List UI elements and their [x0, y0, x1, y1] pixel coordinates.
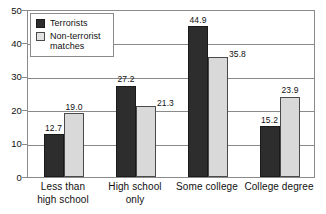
- legend-label-line-2: matches: [50, 41, 84, 51]
- x-label-line-2: high school: [37, 194, 89, 205]
- x-label-line-1: High school: [108, 181, 161, 192]
- y-tick-label-10: 10: [2, 138, 22, 149]
- x-label-college-degree: College degree: [243, 181, 315, 194]
- legend-swatch-nonterrorist-icon: [36, 32, 45, 41]
- legend-swatch-terrorists-icon: [36, 19, 45, 28]
- bar-nonterrorist-college-degree[interactable]: [280, 97, 300, 177]
- x-label-some-college: Some college: [171, 181, 243, 194]
- x-label-line-1: College degree: [244, 181, 313, 192]
- legend-entry-terrorists[interactable]: Terrorists: [36, 18, 106, 29]
- bar-nonterrorist-high-school-only[interactable]: [136, 106, 156, 178]
- bar-terrorists-less-than-high-school[interactable]: [44, 134, 64, 177]
- bar-value-nonterrorist-less-than-high-school: 19.0: [58, 102, 90, 112]
- x-label-line-1: Some college: [176, 181, 238, 192]
- bar-chart: 50 40 30 20 10 0 12.7 19.0: [0, 0, 326, 214]
- x-label-high-school-only: High school only: [99, 181, 171, 206]
- bar-value-terrorists-college-degree: 15.2: [246, 115, 278, 125]
- legend-entry-nonterrorist-matches[interactable]: Non-terroristmatches: [36, 31, 106, 52]
- bar-value-terrorists-some-college: 44.9: [182, 15, 214, 25]
- bar-nonterrorist-some-college[interactable]: [208, 57, 228, 177]
- bar-group-college-degree: 15.2 23.9: [244, 11, 316, 177]
- bar-nonterrorist-less-than-high-school[interactable]: [64, 113, 84, 177]
- bar-terrorists-some-college[interactable]: [188, 26, 208, 177]
- x-label-line-1: Less than: [41, 181, 85, 192]
- bar-terrorists-college-degree[interactable]: [260, 126, 280, 177]
- legend-label-nonterrorist-matches: Non-terroristmatches: [50, 31, 101, 52]
- bar-value-nonterrorist-college-degree: 23.9: [274, 85, 306, 95]
- y-tick-label-0: 0: [2, 172, 22, 183]
- x-label-line-2: only: [126, 194, 145, 205]
- legend-label-line-1: Non-terrorist: [50, 31, 101, 41]
- y-axis: 50 40 30 20 10 0: [0, 0, 27, 214]
- y-tick-label-20: 20: [2, 105, 22, 116]
- legend: Terrorists Non-terroristmatches: [30, 13, 114, 57]
- bar-value-terrorists-less-than-high-school: 12.7: [28, 123, 62, 133]
- y-tick-label-30: 30: [2, 71, 22, 82]
- x-label-less-than-high-school: Less than high school: [27, 181, 99, 206]
- x-axis-category-labels: Less than high school High school only S…: [27, 181, 315, 214]
- y-tick-label-50: 50: [2, 5, 22, 16]
- bar-terrorists-high-school-only[interactable]: [116, 86, 136, 177]
- y-tick-label-40: 40: [2, 38, 22, 49]
- bar-group-some-college: 44.9 35.8: [172, 11, 244, 177]
- bar-value-terrorists-high-school-only: 27.2: [110, 74, 142, 84]
- legend-label-terrorists: Terrorists: [50, 18, 88, 29]
